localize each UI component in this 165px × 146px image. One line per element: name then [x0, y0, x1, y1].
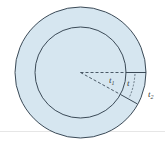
label-t2: t2 [148, 89, 154, 100]
concentric-circles-diagram: t1 t t2 [0, 0, 165, 146]
